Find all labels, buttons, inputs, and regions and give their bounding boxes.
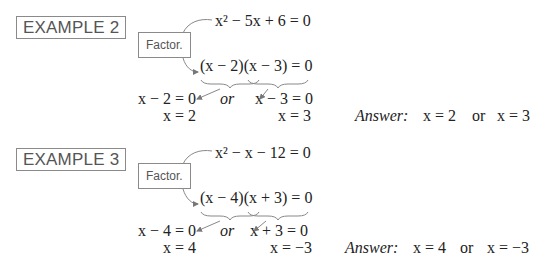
arrow-left-icon [197, 221, 220, 231]
example-3-left-equation: x − 4 = 0 [138, 222, 196, 240]
example-3-factored: (x − 4)(x + 3) = 0 [200, 189, 312, 207]
example-2-left-equation: x − 2 = 0 [138, 90, 196, 108]
example-2-right-equation: x − 3 = 0 [255, 90, 313, 108]
example-2-right-solution: x = 3 [278, 107, 311, 125]
example-2-factored: (x − 2)(x − 3) = 0 [200, 57, 312, 75]
example-3-or: or [220, 222, 234, 240]
brace-left-icon [201, 212, 259, 220]
brace-left-icon [201, 80, 259, 88]
example-2-label: EXAMPLE 2 [16, 16, 126, 39]
curve-arrow-top-icon [183, 151, 212, 164]
example-3-answer-or: or [460, 239, 473, 257]
curve-arrow-bottom-icon [183, 189, 198, 204]
example-2-answer-right: x = 3 [497, 107, 530, 125]
example-2-factor-note: Factor. [138, 32, 191, 58]
example-2-answer-or: or [472, 107, 485, 125]
curve-arrow-top-icon [183, 20, 212, 33]
brace-right-icon [248, 212, 308, 220]
example-2-answer-left: x = 2 [423, 107, 456, 125]
example-3-right-equation: x + 3 = 0 [250, 222, 308, 240]
example-3-answer-right: x = −3 [487, 239, 529, 257]
example-3-right-solution: x = −3 [270, 239, 312, 257]
example-3-answer-label: Answer: [345, 239, 398, 257]
brace-right-icon [248, 80, 308, 88]
example-3-answer-left: x = 4 [413, 239, 446, 257]
example-2-left-solution: x = 2 [163, 107, 196, 125]
curve-arrow-bottom-icon [183, 58, 198, 72]
example-3-label: EXAMPLE 3 [16, 148, 126, 171]
example-3-left-solution: x = 4 [163, 239, 196, 257]
arrow-left-icon [197, 89, 220, 99]
example-3-factor-note: Factor. [138, 163, 191, 189]
example-2-equation: x² − 5x + 6 = 0 [215, 12, 311, 30]
example-2-answer-label: Answer: [355, 107, 408, 125]
example-3-equation: x² − x − 12 = 0 [215, 144, 311, 162]
example-2-or: or [220, 90, 234, 108]
